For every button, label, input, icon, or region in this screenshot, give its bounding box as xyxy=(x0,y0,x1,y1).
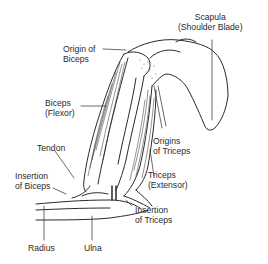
label-tendon: Tendon xyxy=(37,143,65,153)
elbow-joint xyxy=(82,193,108,196)
biceps-muscle xyxy=(84,54,124,192)
biceps-tendon xyxy=(72,186,90,198)
label-radius: Radius xyxy=(28,243,55,253)
arm-muscle-diagram: Scapula (Shoulder Blade) Origin of Bicep… xyxy=(0,0,268,264)
leader-tendon xyxy=(55,151,74,178)
leader-origin-biceps xyxy=(103,49,126,50)
label-triceps: Triceps (Extensor) xyxy=(148,170,188,190)
label-scapula: Scapula (Shoulder Blade) xyxy=(178,12,243,32)
label-ulna: Ulna xyxy=(84,243,102,253)
label-origin-of-biceps: Origin of Biceps xyxy=(63,44,95,64)
label-origins-of-triceps: Origins of Triceps xyxy=(153,136,190,156)
label-biceps: Biceps (Flexor) xyxy=(45,98,75,118)
label-insertion-of-triceps: Insertion of Triceps xyxy=(135,205,172,225)
label-insertion-of-biceps: Insertion of Biceps xyxy=(15,171,50,191)
scapula-shape xyxy=(128,40,228,130)
radius-bone xyxy=(36,200,140,208)
leader-insertion-biceps xyxy=(53,188,66,194)
arm-illustration xyxy=(0,0,268,264)
leader-origins-triceps-1 xyxy=(158,86,166,126)
